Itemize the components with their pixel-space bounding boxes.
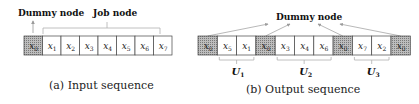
job-node-cell: x4 — [295, 36, 314, 55]
group-label: U3 — [367, 66, 380, 78]
bracket-line — [354, 57, 389, 60]
job-node-cell: x3 — [80, 36, 99, 55]
group-bracket: U1 — [219, 57, 254, 78]
dummy-node-cell: x0 — [24, 36, 43, 55]
job-node-cell: x5 — [217, 36, 236, 55]
panel-a-job-label: Job node — [92, 8, 138, 18]
dummy-node-cell: x0 — [333, 36, 352, 55]
job-node-cell: x7 — [352, 36, 371, 55]
job-node-cell: x6 — [314, 36, 333, 55]
input-sequence: x0x1x2x3x4x5x6x7 — [24, 36, 172, 55]
job-node-cell: x2 — [61, 36, 80, 55]
job-node-cell: x2 — [372, 36, 391, 55]
dummy-node-cell: x0 — [391, 36, 410, 55]
job-node-cell: x5 — [117, 36, 136, 55]
bracket-line — [277, 57, 331, 60]
job-node-cell: x1 — [43, 36, 62, 55]
panel-a-caption: (a) Input sequence — [49, 79, 154, 92]
dummy-node-cell: x0 — [198, 36, 217, 55]
dummy-arrow — [208, 24, 268, 36]
panel-a-dummy-label: Dummy node — [18, 8, 85, 18]
dummy-arrow — [340, 24, 401, 36]
job-node-cell: x6 — [135, 36, 154, 55]
bracket-line — [219, 57, 254, 60]
group-label: U1 — [232, 66, 245, 78]
group-bracket: U2 — [277, 57, 331, 78]
job-node-bracket — [43, 28, 160, 34]
group-label: U2 — [299, 66, 312, 78]
sequence-diagram: Dummy node Job node x0x1x2x3x4x5x6x7 (a)… — [0, 0, 419, 104]
job-node-cell: x1 — [237, 36, 256, 55]
dummy-pointer-arrows — [208, 24, 401, 36]
panel-b-caption: (b) Output sequence — [246, 83, 360, 96]
group-brackets: U1U2U3 — [219, 57, 389, 78]
job-node-cell: x3 — [275, 36, 294, 55]
group-bracket: U3 — [354, 57, 389, 78]
job-node-cell: x7 — [154, 36, 173, 55]
dummy-arrow — [266, 24, 290, 36]
dummy-node-cell: x0 — [256, 36, 275, 55]
panel-b-dummy-label: Dummy node — [276, 12, 343, 22]
dummy-arrow — [318, 24, 343, 36]
job-node-cell: x4 — [98, 36, 117, 55]
output-sequence: x0x5x1x0x3x4x6x0x7x2x0 — [198, 36, 410, 55]
